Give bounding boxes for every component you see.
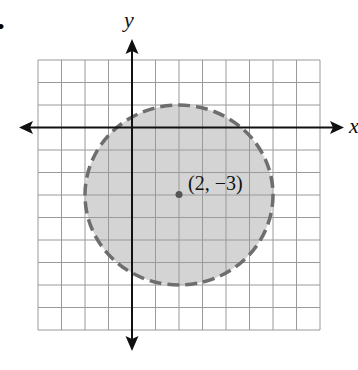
coordinate-graph: • x y (2, −3) — [0, 0, 358, 370]
bullet-marker: • — [0, 14, 5, 39]
center-point — [176, 191, 183, 198]
y-axis-label: y — [122, 7, 134, 32]
x-axis-label: x — [348, 113, 358, 138]
center-point-label: (2, −3) — [188, 172, 243, 195]
